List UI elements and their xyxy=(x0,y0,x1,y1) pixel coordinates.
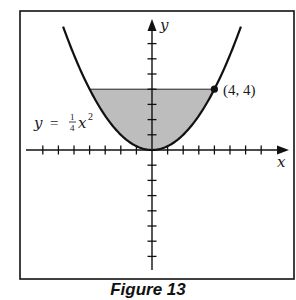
svg-text:y: y xyxy=(33,114,43,132)
figure-caption: Figure 13 xyxy=(0,280,296,300)
y-axis-arrow-icon xyxy=(148,19,157,31)
svg-text:4: 4 xyxy=(70,123,75,133)
curve-equation-label: y = 1 4 x 2 xyxy=(33,111,93,133)
figure-13-diagram: y x (4, 4) y = 1 4 x 2 xyxy=(0,0,296,300)
svg-text:1: 1 xyxy=(70,112,75,122)
svg-text:2: 2 xyxy=(88,111,93,122)
point-label: (4, 4) xyxy=(223,82,256,99)
x-axis-label: x xyxy=(277,153,286,171)
svg-text:x: x xyxy=(78,114,87,132)
point-4-4-marker xyxy=(211,86,218,93)
y-axis-label: y xyxy=(159,16,169,34)
svg-text:=: = xyxy=(50,115,58,131)
